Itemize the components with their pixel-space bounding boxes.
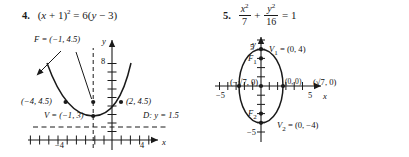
focus-top-label: F1 xyxy=(248,53,257,63)
ellipse-figure xyxy=(205,34,409,157)
frac2-denominator: 16 xyxy=(264,15,278,27)
right-point-label: (2, 4.5) xyxy=(126,96,151,106)
problem-4-number: 4. xyxy=(22,10,30,21)
covertex-left-label: (−√7, 0) xyxy=(230,77,258,87)
minus-sign: − xyxy=(96,9,108,21)
paren-close-2: ) xyxy=(114,9,118,21)
focus-top-point xyxy=(259,56,263,60)
equals-sign: = xyxy=(71,9,83,21)
parabola-svg xyxy=(0,30,205,157)
x-tick-4: 4 xyxy=(140,141,144,150)
x-axis-label: x xyxy=(162,137,166,147)
plus-sign-2: + xyxy=(252,9,264,21)
x-tick-5: 5 xyxy=(308,91,312,100)
problem-5-panel: 5. x27 + y216 = 1 xyxy=(205,0,409,157)
rhs-one: 1 xyxy=(291,9,297,21)
y-tick-5: 5 xyxy=(250,43,254,52)
focus-point xyxy=(91,100,95,104)
focus-bottom-label: F2 xyxy=(248,108,257,118)
y-tick-neg5: −5 xyxy=(247,128,256,137)
problem-5-equation: 5. x27 + y216 = 1 xyxy=(223,5,297,28)
vertex-bottom-coords: = (0, −4) xyxy=(286,120,319,130)
ellipse-svg xyxy=(205,34,409,157)
parabola-curve xyxy=(47,63,131,116)
equals-sign-2: = xyxy=(279,9,291,21)
vertex-top-point xyxy=(259,47,263,51)
vertex-top-label: V1 = (0, 4) xyxy=(269,44,306,54)
vertex-top-coords: = (0, 4) xyxy=(278,44,306,54)
problem-4-equation: 4. (x + 1)2 = 6(y − 3) xyxy=(22,9,117,21)
problem-4-panel: 4. (x + 1)2 = 6(y − 3) xyxy=(0,0,205,157)
covertex-right-label: (√7, 0) xyxy=(313,77,336,87)
fraction-y-squared-over-16: y216 xyxy=(264,4,278,27)
x-tick-neg4: −4 xyxy=(55,141,64,150)
vertex-bottom-point xyxy=(259,121,263,125)
vertex-point xyxy=(91,114,95,118)
fraction-x-squared-over-7: x27 xyxy=(239,4,251,27)
focus-label: F = (−1, 4.5) xyxy=(34,34,80,44)
y-axis-arrow xyxy=(109,40,115,47)
problem-5-number: 5. xyxy=(223,10,231,21)
vertex-label: V = (−1, 3) xyxy=(44,110,84,120)
vertex-bottom-label: V2 = (0, −4) xyxy=(277,120,318,130)
y-axis-label: y xyxy=(102,36,106,46)
center-label: (0, 0) xyxy=(285,77,301,86)
right-point xyxy=(119,100,123,104)
parabola-figure xyxy=(0,30,205,157)
focus-top-subscript: 1 xyxy=(253,58,257,66)
frac2-numerator-exp: 2 xyxy=(272,2,276,10)
left-point-label: (−4, 4.5) xyxy=(21,96,52,106)
plus-sign: + xyxy=(46,9,58,21)
focus-bottom-point xyxy=(259,112,263,116)
frac1-numerator-exp: 2 xyxy=(245,2,249,10)
frac1-denominator: 7 xyxy=(239,15,251,27)
directrix-label: D: y = 1.5 xyxy=(143,110,179,120)
left-point xyxy=(64,100,68,104)
focus-bottom-subscript: 2 xyxy=(253,113,257,121)
leader-lines xyxy=(38,51,92,99)
x-axis-label: x xyxy=(323,91,327,101)
center-point xyxy=(259,84,263,88)
y-tick-8: 8 xyxy=(101,57,105,66)
x-axis-arrow xyxy=(151,137,158,143)
x-tick-neg5: −5 xyxy=(216,91,225,100)
